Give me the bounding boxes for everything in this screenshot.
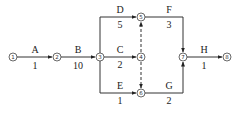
arrow-G: [145, 62, 183, 93]
label-D-name: D: [116, 4, 123, 15]
label-E-name: E: [117, 80, 123, 91]
svg-text:3: 3: [98, 54, 102, 60]
label-H-name: H: [200, 44, 207, 55]
svg-text:4: 4: [139, 54, 143, 60]
label-A-name: A: [31, 44, 39, 55]
svg-text:7: 7: [181, 54, 185, 60]
arrow-F: [145, 17, 183, 52]
label-H-duration: 1: [202, 60, 207, 71]
node-7: 7: [179, 53, 187, 61]
label-G-duration: 2: [167, 95, 172, 106]
label-B-duration: 10: [73, 60, 83, 71]
svg-text:8: 8: [225, 54, 229, 60]
svg-text:2: 2: [55, 54, 59, 60]
node-5: 5: [137, 13, 145, 21]
node-1: 1: [9, 53, 17, 61]
network-diagram: A 1 B 10 D 5 C 2 E 1 F 3 G 2 H 1 1 2 3 4…: [0, 0, 239, 113]
node-8: 8: [223, 53, 231, 61]
label-G-name: G: [165, 80, 172, 91]
node-3: 3: [96, 53, 104, 61]
label-A-duration: 1: [33, 60, 38, 71]
svg-text:6: 6: [139, 90, 143, 96]
svg-text:5: 5: [139, 14, 143, 20]
label-C-name: C: [117, 44, 124, 55]
label-F-duration: 3: [167, 19, 172, 30]
label-B-name: B: [75, 44, 82, 55]
label-F-name: F: [166, 4, 172, 15]
svg-text:1: 1: [11, 54, 15, 60]
label-E-duration: 1: [118, 95, 123, 106]
node-4: 4: [137, 53, 145, 61]
node-2: 2: [53, 53, 61, 61]
label-D-duration: 5: [118, 19, 123, 30]
label-C-duration: 2: [118, 59, 123, 70]
node-6: 6: [137, 89, 145, 97]
